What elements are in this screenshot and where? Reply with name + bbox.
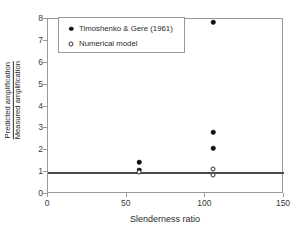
x-tick-mark xyxy=(283,193,284,197)
data-point xyxy=(211,166,216,171)
y-tick-label: 7 xyxy=(27,35,43,45)
x-tick-label: 150 xyxy=(270,198,294,208)
data-point xyxy=(211,130,216,135)
reference-line-unity xyxy=(48,172,284,174)
open-circle-icon xyxy=(59,37,79,50)
y-tick-label: 5 xyxy=(27,79,43,89)
legend-label-numerical: Numerical model xyxy=(79,39,138,48)
y-axis-label: Measured amplification Predicted amplifi… xyxy=(0,0,26,200)
x-tick-label: 100 xyxy=(191,198,217,208)
legend-item-numerical: Numerical model xyxy=(59,37,186,50)
y-tick-label: 0 xyxy=(27,188,43,198)
x-tick-mark xyxy=(204,193,205,197)
data-point xyxy=(211,20,216,25)
plot-area: Timoshenko & Gere (1961) Numerical model xyxy=(47,18,283,193)
y-axis-label-denominator: Measured amplification xyxy=(14,60,23,140)
filled-circle-icon xyxy=(59,22,79,35)
y-tick-label: 3 xyxy=(27,122,43,132)
y-axis-label-numerator: Predicted amplification xyxy=(4,61,14,139)
y-tick-label: 2 xyxy=(27,144,43,154)
legend-item-timoshenko: Timoshenko & Gere (1961) xyxy=(59,22,186,35)
chart-figure: Measured amplification Predicted amplifi… xyxy=(0,0,294,241)
x-tick-label: 0 xyxy=(34,198,60,208)
data-point xyxy=(137,170,142,175)
x-tick-label: 50 xyxy=(113,198,139,208)
y-tick-label: 4 xyxy=(27,101,43,111)
legend-label-timoshenko: Timoshenko & Gere (1961) xyxy=(79,24,173,33)
y-tick-label: 6 xyxy=(27,57,43,67)
y-axis-label-fraction: Measured amplification Predicted amplifi… xyxy=(4,60,22,140)
x-axis-label: Slenderness ratio xyxy=(47,214,283,224)
y-tick-label: 8 xyxy=(27,13,43,23)
y-tick-label: 1 xyxy=(27,166,43,176)
data-point xyxy=(137,160,142,165)
x-tick-mark xyxy=(47,193,48,197)
data-point xyxy=(211,146,216,151)
chart-legend: Timoshenko & Gere (1961) Numerical model xyxy=(58,17,185,53)
x-tick-mark xyxy=(126,193,127,197)
data-point xyxy=(211,173,216,178)
